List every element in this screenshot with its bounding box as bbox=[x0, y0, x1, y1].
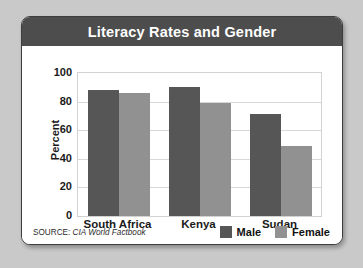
chart-card: Literacy Rates and Gender Percent 100806… bbox=[21, 16, 343, 245]
y-axis-tick-labels: 100806040200 bbox=[46, 72, 72, 215]
bar-male-sudan[interactable] bbox=[250, 114, 281, 216]
y-axis-tick-label: 40 bbox=[60, 152, 72, 164]
bar-group bbox=[250, 73, 312, 216]
legend-item-male[interactable]: Male bbox=[220, 226, 261, 238]
bar-male-south-africa[interactable] bbox=[88, 90, 119, 216]
source-label: SOURCE: bbox=[33, 228, 70, 237]
y-axis-tick-label: 20 bbox=[60, 180, 72, 192]
chart-footer: SOURCE: CIA World Factbook MaleFemale bbox=[22, 220, 342, 244]
chart-title-bar: Literacy Rates and Gender bbox=[22, 17, 342, 46]
y-axis-tick-label: 80 bbox=[60, 95, 72, 107]
plot-area bbox=[77, 72, 322, 217]
bar-group bbox=[88, 73, 150, 216]
page-title: Literacy Rates and Gender bbox=[88, 24, 277, 40]
y-axis-tick-label: 60 bbox=[60, 123, 72, 135]
bar-female-south-africa[interactable] bbox=[119, 93, 150, 216]
page-root: Literacy Rates and Gender Percent 100806… bbox=[0, 0, 363, 268]
legend-label: Male bbox=[237, 226, 261, 238]
bar-group bbox=[169, 73, 231, 216]
square-swatch-icon bbox=[220, 226, 232, 238]
legend-label: Female bbox=[292, 226, 330, 238]
source-value: CIA World Factbook bbox=[73, 228, 146, 237]
square-swatch-icon bbox=[275, 226, 287, 238]
y-axis-tick-label: 100 bbox=[54, 66, 72, 78]
bar-female-sudan[interactable] bbox=[281, 146, 312, 216]
source-note: SOURCE: CIA World Factbook bbox=[33, 228, 146, 237]
chart-plot-region: Percent 100806040200 South AfricaKenyaSu… bbox=[22, 46, 342, 245]
legend-item-female[interactable]: Female bbox=[275, 226, 330, 238]
chart-legend: MaleFemale bbox=[220, 226, 330, 238]
bar-female-kenya[interactable] bbox=[200, 103, 231, 216]
bar-male-kenya[interactable] bbox=[169, 87, 200, 216]
bars-layer bbox=[78, 73, 321, 216]
